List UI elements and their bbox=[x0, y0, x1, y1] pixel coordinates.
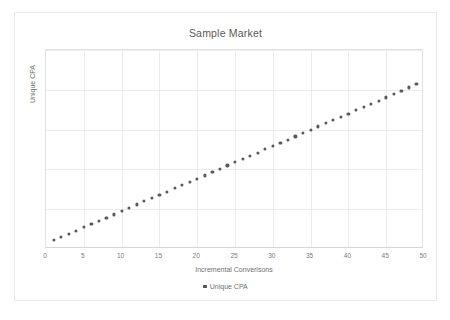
data-point bbox=[143, 200, 146, 203]
legend-marker-icon bbox=[203, 285, 207, 289]
data-point bbox=[301, 132, 304, 135]
data-point bbox=[317, 125, 320, 128]
plot-area bbox=[45, 49, 423, 248]
data-point bbox=[82, 226, 85, 229]
x-tick-label: 5 bbox=[81, 252, 85, 259]
chart-frame: Sample Market 05101520253035404550 Incre… bbox=[14, 12, 437, 301]
data-point bbox=[90, 222, 93, 225]
data-point bbox=[135, 203, 138, 206]
data-point bbox=[165, 190, 168, 193]
data-point bbox=[354, 109, 357, 112]
data-point bbox=[377, 99, 380, 102]
x-tick-label: 10 bbox=[117, 252, 124, 259]
data-point bbox=[332, 118, 335, 121]
data-point bbox=[362, 105, 365, 108]
y-axis-title: Unique CPA bbox=[29, 65, 36, 103]
data-point bbox=[150, 196, 153, 199]
data-point bbox=[264, 148, 267, 151]
data-point bbox=[97, 219, 100, 222]
data-point bbox=[75, 229, 78, 232]
data-point bbox=[347, 112, 350, 115]
x-tick-label: 45 bbox=[382, 252, 389, 259]
data-point bbox=[271, 144, 274, 147]
data-point bbox=[211, 171, 214, 174]
data-point bbox=[385, 96, 388, 99]
data-point bbox=[392, 93, 395, 96]
data-point bbox=[286, 138, 289, 141]
data-point bbox=[400, 89, 403, 92]
data-point bbox=[67, 232, 70, 235]
data-point bbox=[105, 216, 108, 219]
data-point bbox=[218, 167, 221, 170]
data-point bbox=[309, 128, 312, 131]
data-point bbox=[233, 161, 236, 164]
x-tick-label: 20 bbox=[193, 252, 200, 259]
data-point bbox=[324, 122, 327, 125]
data-point bbox=[415, 83, 418, 86]
data-point bbox=[52, 239, 55, 242]
data-point bbox=[203, 174, 206, 177]
x-axis-title: Incremental Converisons bbox=[45, 266, 423, 273]
data-point bbox=[188, 180, 191, 183]
data-point bbox=[339, 115, 342, 118]
data-point bbox=[226, 164, 229, 167]
x-tick-label: 35 bbox=[306, 252, 313, 259]
legend-label: Unique CPA bbox=[210, 283, 248, 290]
data-point bbox=[279, 141, 282, 144]
x-tick-label: 30 bbox=[268, 252, 275, 259]
data-point bbox=[180, 183, 183, 186]
x-tick-label: 0 bbox=[43, 252, 47, 259]
data-point bbox=[196, 177, 199, 180]
data-point bbox=[60, 235, 63, 238]
x-tick-label: 40 bbox=[344, 252, 351, 259]
data-point bbox=[256, 151, 259, 154]
x-tick-label: 50 bbox=[419, 252, 426, 259]
data-point bbox=[128, 206, 131, 209]
data-point bbox=[249, 154, 252, 157]
data-point bbox=[173, 187, 176, 190]
x-tick-label: 15 bbox=[155, 252, 162, 259]
data-point bbox=[369, 102, 372, 105]
data-point bbox=[241, 157, 244, 160]
data-point-markers bbox=[46, 50, 422, 247]
data-point bbox=[158, 193, 161, 196]
data-point bbox=[112, 213, 115, 216]
data-point bbox=[294, 135, 297, 138]
data-point bbox=[407, 86, 410, 89]
x-tick-label: 25 bbox=[230, 252, 237, 259]
data-point bbox=[120, 210, 123, 213]
chart-title: Sample Market bbox=[15, 27, 436, 39]
chart-legend: Unique CPA bbox=[15, 283, 436, 290]
